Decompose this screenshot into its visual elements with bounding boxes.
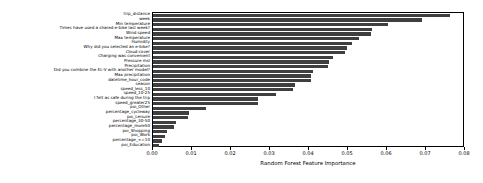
x-axis-tick-label: 0.01 bbox=[185, 150, 196, 156]
bar-row bbox=[153, 79, 465, 82]
y-axis-tick-label: datetime_hour_code bbox=[0, 77, 150, 81]
bar-row bbox=[153, 14, 465, 17]
bar bbox=[153, 37, 359, 40]
bar-row bbox=[153, 70, 465, 73]
bar bbox=[153, 65, 328, 68]
bar bbox=[153, 139, 162, 142]
bar bbox=[153, 46, 347, 49]
bar-row bbox=[153, 116, 465, 119]
bar bbox=[153, 14, 450, 17]
bar bbox=[153, 83, 295, 86]
bar bbox=[153, 88, 293, 91]
bar-row bbox=[153, 130, 465, 133]
bar bbox=[153, 121, 176, 124]
x-axis-tick-label: 0.03 bbox=[263, 150, 274, 156]
bar-row bbox=[153, 144, 465, 147]
x-axis-tick-label: 0.04 bbox=[302, 150, 313, 156]
bar-row bbox=[153, 37, 465, 40]
bar bbox=[153, 111, 189, 114]
bar bbox=[153, 144, 159, 147]
bar-row bbox=[153, 135, 465, 138]
x-axis-title: Random Forest Feature Importance bbox=[152, 160, 464, 166]
x-axis-tick-label: 0.07 bbox=[419, 150, 430, 156]
bar bbox=[153, 102, 258, 105]
x-axis-tick-label: 0.05 bbox=[341, 150, 352, 156]
bar-row bbox=[153, 18, 465, 21]
figure: trip_distanceweekMin temperatureTimes ha… bbox=[0, 0, 483, 183]
bar-row bbox=[153, 121, 465, 124]
bar bbox=[153, 51, 345, 54]
bar-row bbox=[153, 111, 465, 114]
y-axis-tick-label: poi_Education bbox=[0, 143, 150, 147]
bar bbox=[153, 32, 371, 35]
bar-row bbox=[153, 46, 465, 49]
bar bbox=[153, 135, 165, 138]
bar-row bbox=[153, 60, 465, 63]
bar-row bbox=[153, 139, 465, 142]
x-axis-tick-label: 0.00 bbox=[146, 150, 157, 156]
bar-row bbox=[153, 88, 465, 91]
y-axis-tick-label: speed_greater25 bbox=[0, 101, 150, 105]
bar-row bbox=[153, 56, 465, 59]
bar-row bbox=[153, 32, 465, 35]
bar-row bbox=[153, 42, 465, 45]
bar-row bbox=[153, 125, 465, 128]
x-axis-tick-label: 0.08 bbox=[458, 150, 469, 156]
bar bbox=[153, 130, 167, 133]
bar bbox=[153, 60, 329, 63]
bar-row bbox=[153, 97, 465, 100]
bar-row bbox=[153, 65, 465, 68]
bar bbox=[153, 56, 333, 59]
bar bbox=[153, 93, 276, 96]
bar bbox=[153, 42, 352, 45]
bar bbox=[153, 125, 174, 128]
bar-row bbox=[153, 74, 465, 77]
y-axis-tick-label: Max temperature bbox=[0, 35, 150, 39]
bar bbox=[153, 79, 311, 82]
bar bbox=[153, 70, 313, 73]
bar-row bbox=[153, 23, 465, 26]
bar bbox=[153, 107, 206, 110]
y-axis-tick-label: poi_Shopping bbox=[0, 129, 150, 133]
bar-row bbox=[153, 93, 465, 96]
bar bbox=[153, 18, 422, 21]
y-axis-tick-label: trip_distance bbox=[0, 12, 150, 16]
bar-row bbox=[153, 107, 465, 110]
bar bbox=[153, 74, 311, 77]
x-axis-tick-label: 0.06 bbox=[380, 150, 391, 156]
bar-row bbox=[153, 51, 465, 54]
bar-row bbox=[153, 102, 465, 105]
bar bbox=[153, 28, 372, 31]
bar-row bbox=[153, 28, 465, 31]
bar bbox=[153, 97, 258, 100]
bar-row bbox=[153, 83, 465, 86]
bar bbox=[153, 23, 388, 26]
plot-area bbox=[152, 12, 464, 147]
bar bbox=[153, 116, 188, 119]
x-axis-tick-label: 0.02 bbox=[224, 150, 235, 156]
